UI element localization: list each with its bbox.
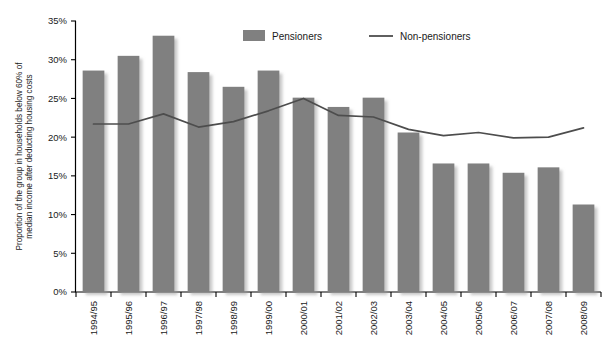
legend-swatch-pensioners	[243, 30, 265, 41]
x-label-2003-04: 2003/04	[403, 301, 414, 335]
y-axis-title-line: Proportion of the group in households be…	[15, 62, 24, 251]
x-label-2002-03: 2002/03	[368, 301, 379, 335]
bar-2004-05	[433, 163, 455, 292]
y-axis-title: Proportion of the group in households be…	[15, 62, 34, 251]
bar-1998-99	[223, 87, 245, 292]
y-axis-title-line: median income after deducting housing co…	[25, 74, 34, 238]
x-label-1994-95: 1994/95	[88, 301, 99, 335]
bar-2005-06	[468, 163, 490, 292]
legend-label-non-pensioners: Non-pensioners	[400, 31, 471, 42]
bar-2007-08	[538, 167, 560, 292]
bar-1999-00	[258, 71, 280, 292]
x-label-1995-96: 1995/96	[123, 301, 134, 335]
y-tick-label: 20%	[48, 132, 68, 143]
x-label-2001-02: 2001/02	[333, 301, 344, 335]
bar-1997-98	[188, 72, 210, 292]
x-label-2006-07: 2006/07	[508, 301, 519, 335]
bar-1994-95	[83, 71, 105, 292]
y-tick-label: 15%	[48, 170, 68, 181]
legend-label-pensioners: Pensioners	[272, 31, 322, 42]
x-label-2000-01: 2000/01	[298, 301, 309, 335]
x-label-2005-06: 2005/06	[473, 301, 484, 335]
x-label-1998-99: 1998/99	[228, 301, 239, 335]
y-tick-label: 0%	[53, 286, 67, 297]
x-label-2004-05: 2004/05	[438, 301, 449, 335]
x-axis-labels: 1994/951995/961996/971997/981998/991999/…	[88, 301, 589, 335]
poverty-rate-chart: Proportion of the group in households be…	[0, 0, 608, 343]
y-tick-label: 30%	[48, 54, 68, 65]
x-label-1996-97: 1996/97	[158, 301, 169, 335]
bar-2006-07	[503, 173, 525, 292]
x-label-1999-00: 1999/00	[263, 301, 274, 335]
y-tick-label: 5%	[53, 248, 67, 259]
y-tick-label: 10%	[48, 209, 68, 220]
y-tick-label: 35%	[48, 15, 68, 26]
bar-2000-01	[293, 98, 315, 292]
bar-2002-03	[363, 98, 385, 292]
bar-2008-09	[573, 205, 595, 292]
bar-2003-04	[398, 132, 420, 292]
chart-container: Proportion of the group in households be…	[0, 0, 608, 343]
bar-1996-97	[153, 36, 175, 292]
x-label-1997-98: 1997/98	[193, 301, 204, 335]
y-tick-label: 25%	[48, 93, 68, 104]
bar-1995-96	[118, 56, 140, 292]
bar-2001-02	[328, 107, 350, 292]
x-label-2007-08: 2007/08	[543, 301, 554, 335]
x-label-2008-09: 2008/09	[578, 301, 589, 335]
